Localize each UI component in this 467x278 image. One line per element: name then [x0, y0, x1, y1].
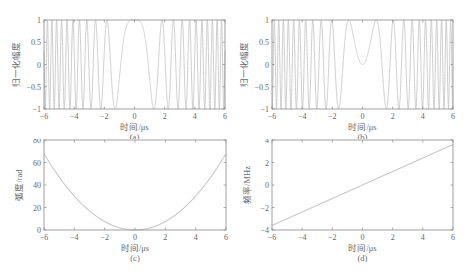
x-axis-label: 时间/μs [121, 243, 149, 253]
y-tick-label: −4 [260, 226, 269, 235]
y-axis-label: 弧度/rad [14, 169, 24, 201]
plot-area [44, 154, 226, 230]
y-tick-label: 0 [265, 61, 269, 70]
x-tick-label: −4 [298, 112, 307, 121]
y-tick-label: 1 [265, 16, 269, 25]
figure-caption: (d) [358, 253, 368, 263]
x-tick-label: 4 [421, 233, 425, 242]
chart-c: −6−4−20246020406080时间/μs(c)弧度/rad [0, 139, 233, 278]
x-tick-label: 4 [193, 112, 197, 121]
data-line [44, 154, 226, 230]
x-tick-label: 4 [194, 233, 198, 242]
x-tick-label: 0 [361, 233, 365, 242]
x-tick-label: 6 [451, 112, 455, 121]
y-tick-label: 4 [265, 139, 269, 145]
y-tick-label: 40 [33, 181, 41, 190]
y-tick-label: −2 [260, 204, 269, 213]
x-tick-label: −6 [268, 233, 277, 242]
y-axis-label: 归一化幅度 [239, 42, 249, 87]
chart-b: −6−4−20246−1−0.500.51时间/μs(b)归一化幅度 [233, 0, 467, 139]
x-tick-label: 0 [361, 112, 365, 121]
y-tick-label: 0.5 [259, 38, 269, 47]
y-tick-label: −0.5 [254, 83, 269, 92]
y-tick-label: 20 [33, 204, 41, 213]
x-tick-label: −4 [70, 233, 79, 242]
x-tick-label: 2 [391, 112, 395, 121]
x-tick-label: 6 [223, 112, 227, 121]
x-tick-label: −2 [100, 112, 109, 121]
y-tick-label: 0 [37, 226, 41, 235]
x-tick-label: −2 [100, 233, 109, 242]
y-axis-label: 归一化幅度 [11, 42, 21, 87]
figure-caption: (c) [130, 253, 140, 263]
plot-area [272, 20, 453, 109]
y-tick-label: −1 [32, 105, 41, 114]
x-tick-label: −6 [40, 112, 49, 121]
x-axis-label: 时间/μs [348, 243, 376, 253]
data-line [272, 20, 453, 109]
x-tick-label: 2 [163, 112, 167, 121]
x-tick-label: −6 [268, 112, 277, 121]
x-tick-label: 4 [421, 112, 425, 121]
plot-area [44, 20, 225, 109]
y-tick-label: 60 [33, 159, 41, 168]
x-tick-label: 2 [163, 233, 167, 242]
y-tick-label: −1 [260, 105, 269, 114]
x-tick-label: −2 [328, 112, 337, 121]
x-tick-label: −4 [298, 233, 307, 242]
y-tick-label: 2 [265, 159, 269, 168]
x-axis-label: 时间/μs [120, 122, 148, 132]
chart-a: −6−4−20246−1−0.500.51时间/μs(a)归一化幅度 [0, 0, 233, 139]
data-line [44, 20, 225, 109]
figure-caption: (b) [358, 132, 368, 139]
chart-a-svg: −6−4−20246−1−0.500.51时间/μs(a)归一化幅度 [0, 0, 233, 139]
y-tick-label: 0.5 [31, 38, 41, 47]
chart-b-svg: −6−4−20246−1−0.500.51时间/μs(b)归一化幅度 [233, 0, 467, 139]
x-tick-label: 0 [133, 112, 137, 121]
y-tick-label: 0 [265, 181, 269, 190]
x-tick-label: 2 [391, 233, 395, 242]
chart-c-svg: −6−4−20246020406080时间/μs(c)弧度/rad [0, 139, 233, 278]
x-tick-label: −4 [70, 112, 79, 121]
y-tick-label: 0 [37, 61, 41, 70]
x-tick-label: −6 [40, 233, 49, 242]
x-axis-label: 时间/μs [348, 122, 376, 132]
data-line [272, 145, 453, 226]
chart-d: −6−4−20246−4−2024时间/μs(d)频率/MHz [233, 139, 467, 278]
x-tick-label: 6 [224, 233, 228, 242]
x-tick-label: 6 [451, 233, 455, 242]
y-tick-label: 1 [37, 16, 41, 25]
plot-area [272, 145, 453, 226]
x-tick-label: 0 [133, 233, 137, 242]
y-tick-label: −0.5 [26, 83, 41, 92]
chart-d-svg: −6−4−20246−4−2024时间/μs(d)频率/MHz [233, 139, 467, 278]
y-tick-label: 80 [33, 139, 41, 145]
figure-caption: (a) [130, 132, 140, 139]
x-tick-label: −2 [328, 233, 337, 242]
y-axis-label: 频率/MHz [242, 166, 252, 204]
axes-frame [44, 140, 226, 230]
